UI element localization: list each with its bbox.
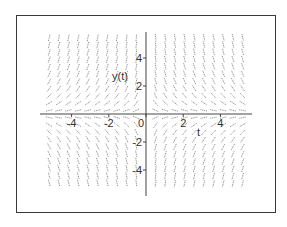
slope-segment bbox=[165, 180, 166, 187]
slope-segment bbox=[57, 93, 62, 98]
slope-segment bbox=[203, 34, 205, 41]
slope-segment bbox=[183, 130, 187, 135]
slope-segment bbox=[213, 180, 215, 187]
slope-segment bbox=[242, 180, 244, 187]
slope-segment bbox=[242, 34, 244, 41]
slope-segment bbox=[86, 93, 91, 98]
slope-segment bbox=[163, 101, 168, 106]
slope-segment bbox=[66, 93, 71, 98]
slope-segment bbox=[116, 41, 117, 48]
slope-segment bbox=[68, 49, 70, 56]
slope-segment bbox=[57, 137, 61, 143]
slope-segment bbox=[212, 71, 215, 78]
slope-segment bbox=[106, 158, 108, 165]
slope-segment bbox=[76, 86, 80, 92]
slope-segment bbox=[222, 78, 225, 84]
slope-segment bbox=[125, 93, 129, 99]
slope-segment bbox=[213, 165, 215, 172]
slope-segment bbox=[193, 86, 197, 92]
y-tick-label: -2 bbox=[132, 136, 142, 148]
slope-segment bbox=[230, 123, 236, 127]
slope-segment bbox=[223, 180, 225, 187]
slope-segment bbox=[241, 144, 244, 150]
direction-field-plot: -4-2024-4-224 y(t) t bbox=[0, 0, 287, 227]
slope-segment bbox=[87, 165, 89, 172]
y-tick-label: 4 bbox=[136, 52, 142, 64]
slope-segment bbox=[203, 41, 205, 48]
slope-segment bbox=[68, 173, 70, 180]
slope-segment bbox=[192, 101, 198, 105]
slope-segment bbox=[95, 123, 101, 127]
slope-segment bbox=[164, 93, 168, 99]
slope-segment bbox=[107, 180, 109, 187]
slope-segment bbox=[47, 86, 51, 92]
slope-segment bbox=[212, 137, 216, 143]
slope-segment bbox=[241, 71, 244, 77]
slope-segment bbox=[48, 78, 51, 84]
slope-segment bbox=[77, 165, 79, 172]
slope-segment bbox=[48, 180, 50, 187]
slope-segment bbox=[162, 109, 169, 111]
slope-segment bbox=[46, 101, 52, 105]
slope-segment bbox=[78, 180, 80, 187]
slope-segment bbox=[97, 63, 99, 70]
slope-segment bbox=[87, 173, 89, 180]
slope-segment bbox=[184, 173, 186, 180]
slope-segment bbox=[173, 136, 176, 142]
slope-segment bbox=[194, 180, 196, 187]
slope-segment bbox=[231, 144, 234, 150]
slope-segment bbox=[67, 158, 69, 165]
slope-segment bbox=[184, 158, 186, 165]
slope-segment bbox=[48, 144, 51, 150]
slope-segment bbox=[213, 49, 215, 56]
slope-segment bbox=[77, 144, 80, 150]
slope-segment bbox=[116, 165, 118, 172]
slope-segment bbox=[153, 109, 159, 112]
slope-segment bbox=[239, 117, 246, 118]
slope-segment bbox=[203, 151, 206, 158]
slope-segment bbox=[123, 109, 130, 111]
slope-segment bbox=[201, 123, 207, 127]
slope-segment bbox=[126, 41, 127, 48]
slope-segment bbox=[124, 123, 129, 128]
slope-segment bbox=[153, 116, 159, 119]
slope-segment bbox=[230, 110, 237, 111]
slope-segment bbox=[47, 93, 52, 98]
slope-segment bbox=[213, 158, 215, 165]
slope-segment bbox=[77, 151, 80, 158]
slope-segment bbox=[133, 109, 139, 112]
slope-segment bbox=[87, 158, 89, 165]
slope-segment bbox=[126, 49, 127, 56]
slope-segment bbox=[184, 56, 186, 63]
slope-segment bbox=[172, 110, 179, 112]
slope-segment bbox=[242, 63, 245, 70]
slope-segment bbox=[173, 129, 177, 135]
slope-segment bbox=[115, 85, 118, 91]
slope-segment bbox=[77, 56, 79, 63]
slope-segment bbox=[68, 180, 70, 187]
slope-segment bbox=[87, 49, 89, 56]
slope-segment bbox=[97, 180, 99, 187]
slope-segment bbox=[126, 151, 128, 158]
slope-segment bbox=[136, 71, 137, 78]
slope-segment bbox=[66, 101, 72, 105]
slope-segment bbox=[107, 49, 109, 56]
slope-segment bbox=[232, 34, 234, 41]
slope-segment bbox=[106, 137, 110, 143]
slope-segment bbox=[125, 85, 128, 91]
slope-segment bbox=[232, 173, 234, 180]
slope-segment bbox=[126, 172, 127, 179]
slope-segment bbox=[67, 151, 70, 158]
slope-segment bbox=[202, 93, 207, 98]
slope-segment bbox=[78, 41, 80, 48]
slope-segment bbox=[164, 136, 167, 142]
slope-segment bbox=[48, 173, 50, 180]
slope-segment bbox=[77, 63, 79, 70]
slope-segment bbox=[191, 110, 198, 112]
slope-segment bbox=[191, 117, 198, 119]
slope-segment bbox=[135, 93, 138, 99]
slope-segment bbox=[94, 110, 101, 112]
slope-segment bbox=[126, 34, 127, 41]
slope-segment bbox=[47, 137, 51, 143]
slope-segment bbox=[222, 151, 225, 158]
